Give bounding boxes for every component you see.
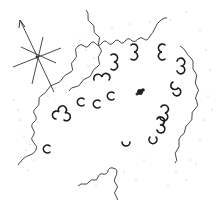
inner-edge-line	[69, 10, 102, 91]
north-arrow-icon	[13, 20, 61, 92]
site-plan	[0, 0, 222, 200]
hearth-feature	[136, 88, 145, 95]
stone-horseshoe	[77, 98, 84, 106]
stone-horseshoe	[93, 100, 100, 108]
east-edge-line	[175, 46, 199, 163]
stone-cloverleaf	[131, 44, 138, 60]
stone-cloverleaf	[111, 54, 118, 70]
stone-cloverleaf	[177, 58, 185, 74]
stone-horseshoe	[149, 137, 157, 144]
south-edge-line	[78, 168, 118, 200]
stone-horseshoe	[122, 142, 130, 146]
outer-edge-line	[78, 18, 167, 47]
stone-cloverleaf	[52, 106, 70, 121]
stone-cloverleaf	[94, 73, 110, 80]
stone-horseshoe	[107, 92, 114, 100]
stone-cloverleaf	[158, 44, 165, 60]
stone-cloverleaf	[171, 82, 181, 96]
west-edge-line	[18, 46, 78, 165]
stone-horseshoe	[43, 145, 50, 153]
